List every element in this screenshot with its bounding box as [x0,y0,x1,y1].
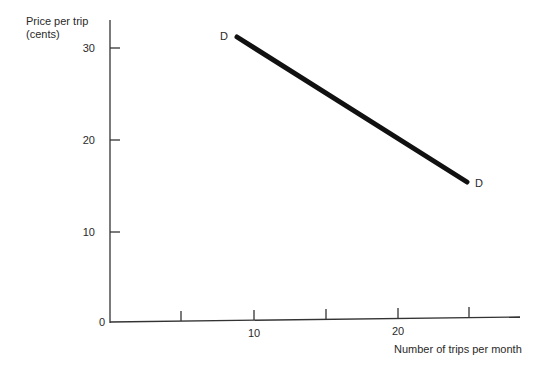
y-tick-label: 10 [65,226,95,238]
x-tick-label: 10 [239,327,269,339]
demand-curve [237,37,467,182]
y-tick-label: 30 [65,42,95,54]
y-axis-label: Price per trip (cents) [26,15,88,41]
curve-label-start: D [220,30,228,42]
x-axis [110,317,520,322]
y-tick-label: 0 [75,316,105,328]
curve-label-end: D [475,177,483,189]
x-tick-label: 20 [383,325,413,337]
y-tick-label: 20 [65,134,95,146]
y-ticks [110,48,120,232]
x-axis-label: Number of trips per month [394,343,522,355]
